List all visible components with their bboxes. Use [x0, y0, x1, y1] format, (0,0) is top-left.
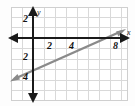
x-tick-label-8: 8 [113, 41, 118, 51]
y-tick-label-neg2: 2 [23, 52, 28, 62]
y-tick-label-neg4: 4 [23, 72, 28, 82]
graph-figure: 2 2 4 2 4 8 y x [0, 0, 135, 106]
y-tick-label-2: 2 [23, 14, 28, 24]
x-tick-label-4: 4 [69, 41, 74, 51]
x-tick-label-2: 2 [47, 41, 52, 51]
axis-arrow-layer [0, 0, 135, 106]
y-axis-name: y [37, 9, 41, 17]
x-axis-name: x [127, 29, 131, 37]
x-axis-arrow-left [8, 33, 18, 43]
y-axis-arrow-down [28, 93, 38, 103]
